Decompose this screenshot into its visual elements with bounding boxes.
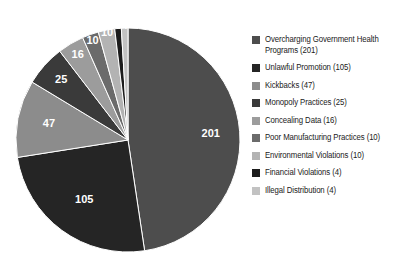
- pie-slice-label: 16: [72, 48, 84, 60]
- legend-color-swatch-icon: [252, 152, 260, 160]
- pie-slice-label: 4: [122, 19, 129, 31]
- pie-chart-svg: 201105472516101044: [0, 0, 250, 274]
- legend-item-label: Poor Manufacturing Practices (10): [265, 132, 380, 143]
- legend-item[interactable]: Financial Violations (4): [252, 167, 408, 178]
- legend-item-label: Environmental Violations (10): [265, 150, 364, 161]
- pie-slice-label: 10: [86, 34, 98, 46]
- legend-item[interactable]: Kickbacks (47): [252, 80, 408, 91]
- pie-slice-label: 25: [55, 73, 67, 85]
- legend-item-label: Financial Violations (4): [265, 167, 341, 178]
- legend-item-label: Overcharging Government Health Programs …: [265, 34, 398, 55]
- legend-item[interactable]: Concealing Data (16): [252, 115, 408, 126]
- legend-item-label: Illegal Distribution (4): [265, 185, 336, 196]
- legend-color-swatch-icon: [252, 169, 260, 177]
- legend-color-swatch-icon: [252, 36, 260, 44]
- legend-color-swatch-icon: [252, 82, 260, 90]
- legend-color-swatch-icon: [252, 64, 260, 72]
- legend-item-label: Monopoly Practices (25): [265, 97, 347, 108]
- legend-item[interactable]: Environmental Violations (10): [252, 150, 408, 161]
- legend-item[interactable]: Poor Manufacturing Practices (10): [252, 132, 408, 143]
- pie-slice: [128, 28, 240, 251]
- pie-chart-area: 201105472516101044: [0, 0, 250, 274]
- legend-color-swatch-icon: [252, 117, 260, 125]
- legend-color-swatch-icon: [252, 134, 260, 142]
- pie-slice-label: 105: [75, 193, 93, 205]
- legend-item-label: Concealing Data (16): [265, 115, 337, 126]
- chart-legend: Overcharging Government Health Programs …: [252, 34, 408, 202]
- legend-item-label: Kickbacks (47): [265, 80, 315, 91]
- legend-color-swatch-icon: [252, 99, 260, 107]
- legend-item-label: Unlawful Promotion (105): [265, 62, 351, 73]
- legend-item[interactable]: Unlawful Promotion (105): [252, 62, 408, 73]
- pie-chart-figure: 201105472516101044 Overcharging Governme…: [0, 0, 408, 274]
- legend-item[interactable]: Illegal Distribution (4): [252, 185, 408, 196]
- pie-slice-label: 201: [202, 127, 220, 139]
- pie-slice-label: 10: [101, 26, 113, 38]
- legend-color-swatch-icon: [252, 187, 260, 195]
- legend-item[interactable]: Overcharging Government Health Programs …: [252, 34, 408, 55]
- legend-item[interactable]: Monopoly Practices (25): [252, 97, 408, 108]
- pie-slice-label: 47: [43, 117, 55, 129]
